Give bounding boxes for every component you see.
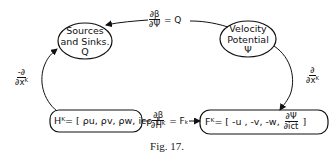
f-box-frac-den: ∂ict (283, 122, 300, 131)
top-edge-den: ∂Ψ (148, 20, 161, 29)
top-edge-label: ∂β ∂Ψ = Q (148, 10, 181, 29)
figure-caption: Fig. 17. (0, 140, 334, 152)
f-box: Fᴷ= [ -u , -v, -w, ∂Ψ ∂ict ] (205, 112, 306, 131)
left-arrow (42, 49, 57, 111)
top-edge-rhs: = Q (164, 15, 182, 25)
sources-sinks-line1: Sources (58, 26, 112, 37)
right-edge-label: ∂ ∂xᴷ (305, 66, 320, 85)
left-edge-label: -∂ ∂xᴷ (14, 68, 29, 87)
left-edge-den: ∂xᴷ (14, 78, 29, 87)
f-box-fraction: ∂Ψ ∂ict (283, 112, 300, 131)
sources-sinks-node: Sources and Sinks. Q (58, 26, 112, 58)
f-box-prefix: Fᴷ= [ -u , -v, -w, (205, 116, 280, 127)
right-edge-den: ∂xᴷ (305, 76, 320, 85)
velocity-potential-line3: Ψ (220, 45, 276, 56)
sources-sinks-line3: Q (58, 47, 112, 58)
right-edge-fraction: ∂ ∂xᴷ (305, 66, 320, 85)
right-arrow (274, 46, 293, 110)
bottom-edge-rhs: = Fₖ (169, 116, 188, 126)
h-box: Hᴷ= [ ρu, ρv, ρw, icρ ] (54, 115, 159, 127)
left-edge-fraction: -∂ ∂xᴷ (14, 68, 29, 87)
f-box-suffix: ] (302, 116, 306, 127)
h-box-text: Hᴷ= [ ρu, ρv, ρw, icρ ] (54, 115, 159, 126)
top-edge-fraction: ∂β ∂Ψ (148, 10, 161, 29)
velocity-potential-line1: Velocity (220, 24, 276, 35)
velocity-potential-node: Velocity Potential Ψ (220, 24, 276, 56)
